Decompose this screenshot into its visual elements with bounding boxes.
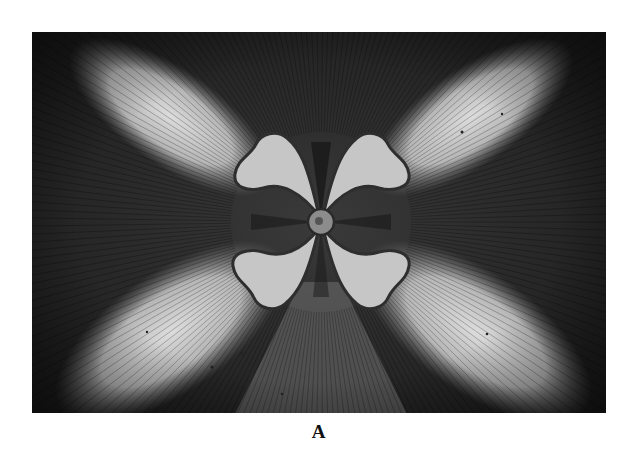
micrograph-image xyxy=(32,32,606,413)
crystal-pattern-graphic xyxy=(32,32,606,413)
figure-caption: A xyxy=(0,421,637,443)
